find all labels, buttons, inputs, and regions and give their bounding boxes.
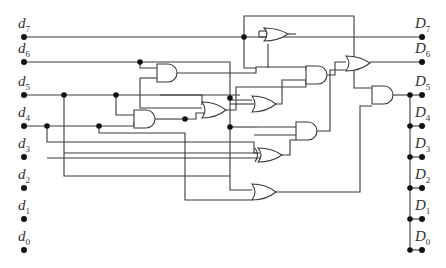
input-label-d0: d0 xyxy=(18,229,30,247)
circuit-svg xyxy=(0,0,446,268)
logic-circuit-diagram: d7 d6 d5 d4 d3 d2 d1 d0 D7 D6 D5 D4 D3 D… xyxy=(0,0,446,268)
input-label-d7: d7 xyxy=(18,16,30,34)
input-label-d1: d1 xyxy=(18,198,30,216)
input-label-d2: d2 xyxy=(18,167,30,185)
input-label-d5: d5 xyxy=(18,74,30,92)
xor-gate xyxy=(258,148,282,162)
output-label-D3: D3 xyxy=(415,136,430,154)
or-gate-d6 xyxy=(346,56,370,71)
and-gate-d5 xyxy=(372,86,393,104)
and-gate-2 xyxy=(134,110,155,128)
and-gate-3 xyxy=(306,66,327,84)
output-label-D7: D7 xyxy=(415,16,430,34)
and-gate-1 xyxy=(157,64,177,82)
input-label-d3: d3 xyxy=(18,136,30,154)
or-gate-top xyxy=(264,28,288,41)
and-gate-4 xyxy=(296,122,317,140)
output-label-D1: D1 xyxy=(415,198,430,216)
output-label-D0: D0 xyxy=(415,229,430,247)
output-label-D2: D2 xyxy=(415,167,430,185)
input-label-d6: d6 xyxy=(18,41,30,59)
or-gate-3 xyxy=(252,96,276,112)
input-label-d4: d4 xyxy=(18,105,30,123)
or-gate-bottom xyxy=(252,184,276,200)
or-gate-2 xyxy=(202,102,226,118)
output-label-D6: D6 xyxy=(415,41,430,59)
output-label-D4: D4 xyxy=(415,105,430,123)
output-label-D5: D5 xyxy=(415,74,430,92)
